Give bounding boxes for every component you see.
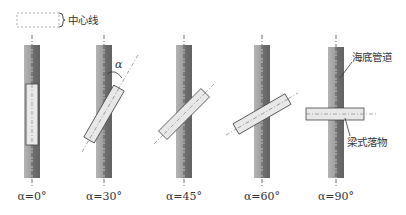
case-60: α=60° <box>226 35 298 203</box>
case-label: α=45° <box>166 190 202 203</box>
object-leader <box>345 118 350 136</box>
legend: 中心线 <box>17 13 99 27</box>
case-90: 海底管道 梁式落物 α=90° <box>306 35 393 203</box>
case-label: α=0° <box>17 190 46 203</box>
case-label: α=90° <box>318 190 354 203</box>
falling-object-label: 梁式落物 <box>347 136 387 148</box>
angle-symbol: α <box>115 58 123 71</box>
legend-brace <box>59 13 65 27</box>
case-45: α=45° <box>154 35 214 203</box>
legend-centerline-label: 中心线 <box>68 14 99 26</box>
case-30: α α=30° <box>82 35 138 203</box>
case-0: α=0° <box>17 35 46 203</box>
case-label: α=60° <box>244 190 280 203</box>
legend-centerline-sample <box>17 13 59 27</box>
impact-angle-diagram: 中心线 α=0° α α=30° α=45° <box>0 0 406 215</box>
pipeline-label: 海底管道 <box>352 51 393 63</box>
case-label: α=30° <box>86 190 122 203</box>
